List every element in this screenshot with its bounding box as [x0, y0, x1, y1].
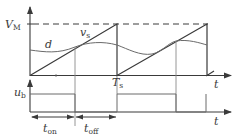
upper-plot: VM d vs Ts t: [5, 7, 231, 126]
pwm-waveform-diagram: VM d vs Ts t ub ton tof: [0, 0, 241, 138]
modulating-curve-d: [30, 40, 207, 54]
toff-arrow-left-head: [76, 115, 83, 120]
pulse-waveform-ub: [30, 94, 206, 112]
sawtooth-carrier-vs: [30, 24, 214, 76]
d-label: d: [45, 38, 52, 51]
upper-t-label: t: [214, 78, 219, 91]
ton-arrow-right-head: [67, 115, 74, 120]
toff-label: toff: [84, 122, 99, 136]
vm-label: VM: [5, 18, 21, 32]
toff-arrow-right-head: [109, 115, 116, 120]
ts-label: Ts: [112, 76, 123, 90]
vs-label: vs: [80, 26, 90, 40]
ton-label: ton: [43, 122, 57, 136]
ub-label: ub: [14, 86, 26, 100]
ton-arrow-left-head: [31, 115, 38, 120]
lower-t-label: t: [214, 115, 219, 128]
